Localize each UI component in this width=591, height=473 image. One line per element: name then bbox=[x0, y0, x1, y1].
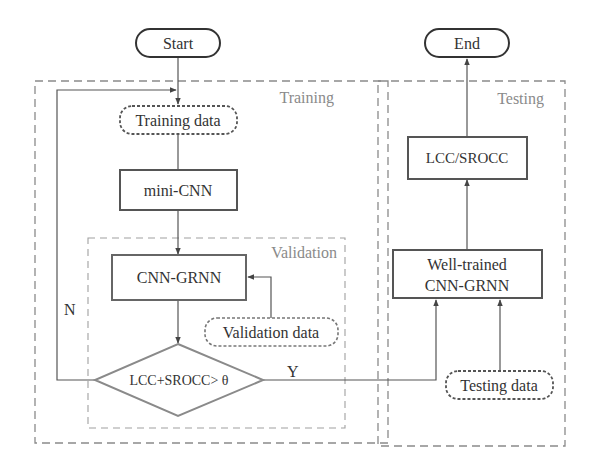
mini-cnn-node: mini-CNN bbox=[120, 170, 237, 210]
validation-group-label: Validation bbox=[271, 244, 337, 261]
training-data-node: Training data bbox=[120, 106, 237, 134]
decision-node: LCC+SROCC> θ bbox=[95, 344, 263, 416]
training-data-label: Training data bbox=[135, 112, 220, 130]
mini-cnn-label: mini-CNN bbox=[144, 182, 213, 199]
lcc-srocc-node: LCC/SROCC bbox=[408, 137, 527, 179]
cnn-grnn-node: CNN-GRNN bbox=[112, 255, 246, 300]
start-node: Start bbox=[136, 29, 220, 57]
testing-data-label: Testing data bbox=[460, 377, 538, 395]
well-trained-label-line1: Well-trained bbox=[427, 256, 507, 273]
testing-data-node: Testing data bbox=[446, 371, 553, 399]
well-trained-node: Well-trained CNN-GRNN bbox=[393, 250, 542, 298]
end-node: End bbox=[425, 29, 509, 57]
validation-data-label: Validation data bbox=[223, 324, 319, 341]
well-trained-label-line2: CNN-GRNN bbox=[425, 277, 510, 294]
cnn-grnn-label: CNN-GRNN bbox=[137, 269, 222, 286]
edge-validation-data-to-cnn-grnn bbox=[248, 277, 271, 318]
edge-label-yes: Y bbox=[287, 363, 299, 380]
flowchart: Training Validation Testing N Y bbox=[0, 0, 591, 473]
validation-data-node: Validation data bbox=[205, 318, 338, 346]
training-group-label: Training bbox=[279, 89, 334, 107]
lcc-srocc-label: LCC/SROCC bbox=[426, 150, 509, 166]
edge-label-no: N bbox=[64, 301, 76, 318]
end-label: End bbox=[454, 35, 480, 52]
testing-group-label: Testing bbox=[497, 90, 544, 108]
start-label: Start bbox=[163, 35, 194, 52]
decision-label: LCC+SROCC> θ bbox=[129, 373, 228, 388]
